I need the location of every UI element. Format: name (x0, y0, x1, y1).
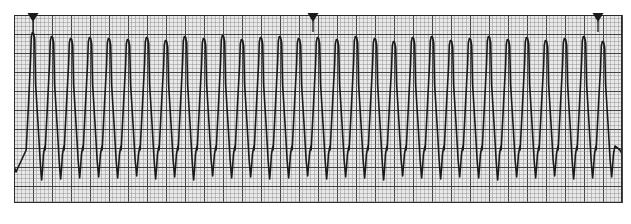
ecg-canvas (0, 0, 631, 224)
ecg-rhythm-strip (0, 0, 631, 224)
